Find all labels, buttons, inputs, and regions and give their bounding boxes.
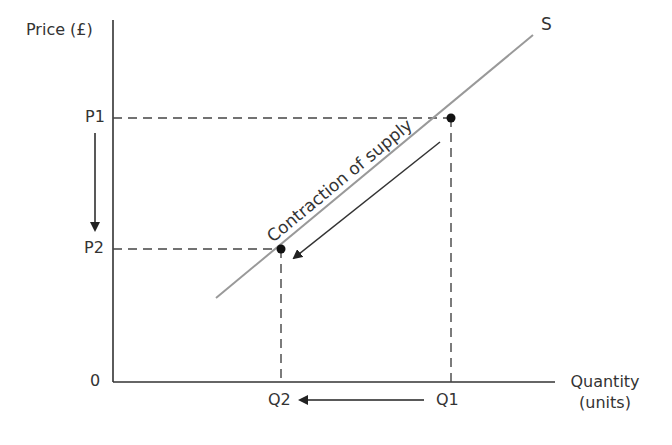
point-p1-q1 (447, 114, 456, 123)
x-axis-label-line1: Quantity (570, 374, 640, 390)
point-p2-q2 (277, 245, 286, 254)
y-tick-p1: P1 (85, 109, 105, 125)
y-axis-label: Price (£) (26, 22, 93, 38)
x-tick-q1: Q1 (436, 392, 459, 408)
y-tick-p2: P2 (84, 240, 104, 256)
contraction-label: Contraction of supply (263, 115, 416, 246)
x-tick-q2: Q2 (268, 392, 291, 408)
supply-curve-label: S (541, 16, 552, 33)
supply-curve (216, 35, 533, 298)
x-axis-label-line2: (units) (570, 395, 640, 411)
origin-label: 0 (90, 373, 100, 389)
